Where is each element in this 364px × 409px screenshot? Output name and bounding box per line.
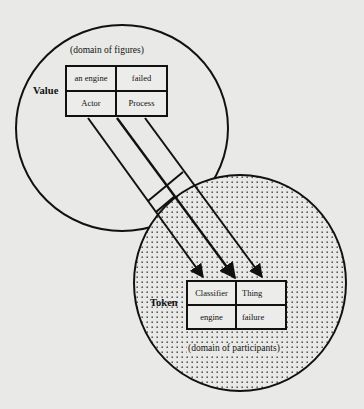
token-cell-classifier: Classifier: [187, 281, 236, 305]
value-cell-failed: failed: [116, 66, 167, 90]
token-row-label: Token: [150, 297, 178, 308]
token-cell-engine: engine: [187, 305, 236, 329]
figures-domain-label: (domain of figures): [70, 45, 144, 55]
token-cell-thing: Thing: [236, 281, 286, 305]
value-cell-actor: Actor: [66, 91, 116, 115]
value-cell-an-engine: an engine: [66, 66, 116, 90]
value-cell-process: Process: [116, 91, 167, 115]
token-cell-failure: failure: [236, 305, 286, 329]
diagram-canvas: [0, 0, 364, 409]
participants-domain-label: (domain of participants): [187, 343, 281, 353]
value-row-label: Value: [33, 85, 58, 96]
